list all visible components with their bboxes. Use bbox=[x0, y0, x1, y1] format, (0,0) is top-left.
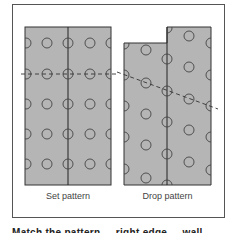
clipped-footer-text: Match the pattern ... right edge ... wal… bbox=[12, 227, 215, 233]
drop-pattern-panel bbox=[117, 23, 218, 190]
drop-pattern-caption: Drop pattern bbox=[124, 191, 211, 201]
set-pattern-panel bbox=[21, 27, 116, 185]
set-pattern-caption: Set pattern bbox=[25, 191, 111, 201]
